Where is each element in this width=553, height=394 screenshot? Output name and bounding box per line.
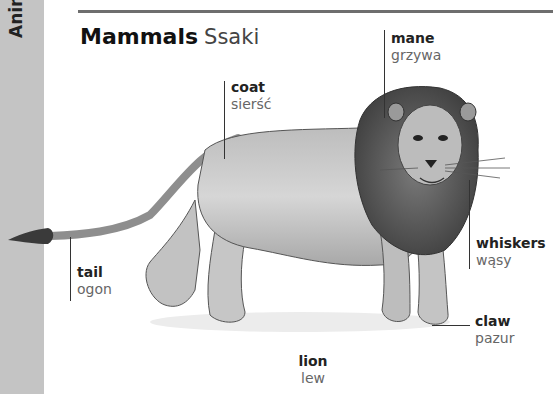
caption-en: lion xyxy=(290,353,336,370)
tail-leader-line xyxy=(70,237,71,301)
label-coat-en: coat xyxy=(231,79,272,96)
caption-lion: lion lew xyxy=(290,353,336,387)
caption-pl: lew xyxy=(290,370,336,387)
lion-illustration xyxy=(0,0,553,394)
mane-leader-line xyxy=(384,30,385,118)
tail-tuft xyxy=(8,228,53,244)
coat-leader-line xyxy=(224,81,225,159)
label-claw: claw pazur xyxy=(475,313,514,347)
label-coat-pl: sierść xyxy=(231,96,272,113)
label-claw-en: claw xyxy=(475,313,514,330)
label-coat: coat sierść xyxy=(231,79,272,113)
label-tail-en: tail xyxy=(77,264,112,281)
label-whiskers-en: whiskers xyxy=(476,235,546,252)
label-tail: tail ogon xyxy=(77,264,112,298)
label-tail-pl: ogon xyxy=(77,281,112,298)
label-mane-pl: grzywa xyxy=(391,47,441,64)
label-whiskers: whiskers wąsy xyxy=(476,235,546,269)
label-mane-en: mane xyxy=(391,30,441,47)
claw-leader-line xyxy=(432,325,470,326)
whiskers-leader-line xyxy=(469,180,470,269)
label-mane: mane grzywa xyxy=(391,30,441,64)
label-whiskers-pl: wąsy xyxy=(476,252,546,269)
label-claw-pl: pazur xyxy=(475,330,514,347)
